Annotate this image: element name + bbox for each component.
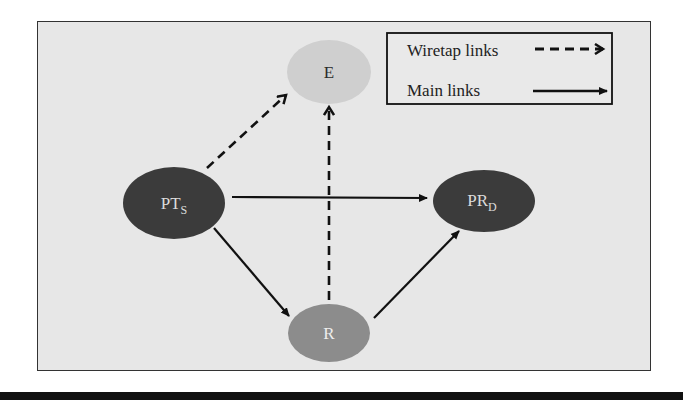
network-diagram: PTS E PRD R Wiretap links Main links (0, 0, 683, 400)
node-e: E (287, 40, 371, 104)
edge-pts-to-e-wiretap (207, 95, 286, 168)
svg-text:E: E (324, 63, 334, 82)
node-pts: PTS (123, 167, 225, 239)
edge-pts-to-r-main (214, 228, 289, 316)
svg-text:R: R (323, 324, 335, 343)
legend-wiretap-label: Wiretap links (407, 41, 498, 60)
node-prd-label: PR (467, 191, 488, 210)
node-prd: PRD (433, 170, 535, 232)
edge-pts-to-prd-main (232, 197, 427, 198)
legend: Wiretap links Main links (387, 33, 612, 104)
node-r: R (288, 304, 370, 362)
node-pts-label: PT (161, 194, 181, 213)
node-prd-subscript: D (488, 200, 497, 214)
node-e-label: E (324, 63, 334, 82)
node-pts-subscript: S (181, 203, 188, 217)
node-r-label: R (323, 324, 335, 343)
legend-main-label: Main links (407, 81, 480, 100)
edge-r-to-prd-main (374, 231, 459, 318)
